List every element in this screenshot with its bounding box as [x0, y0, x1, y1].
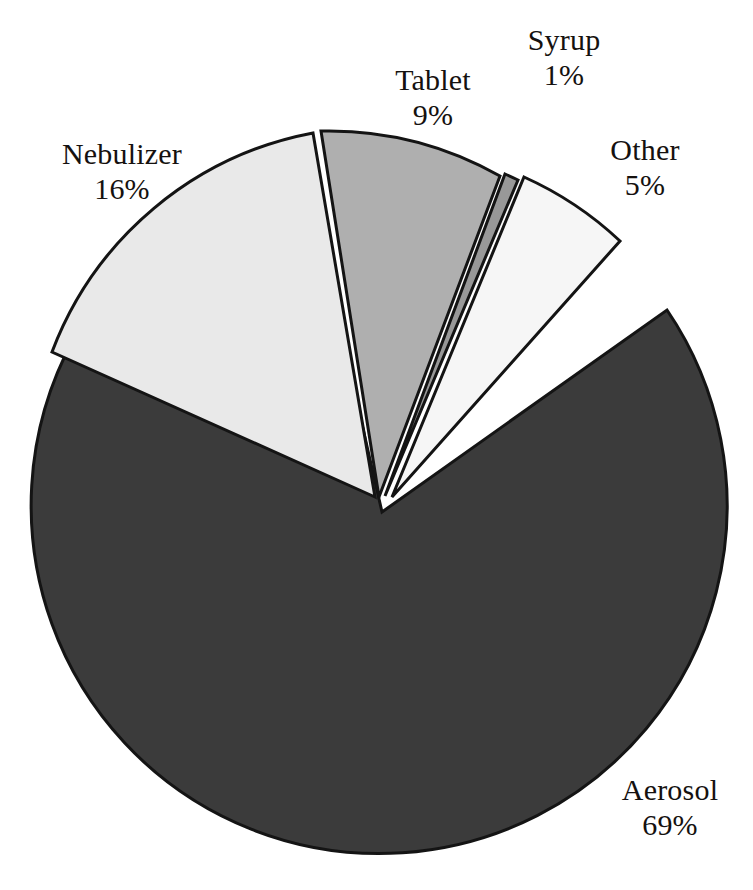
pie-label-tablet-value: 9%	[348, 97, 518, 132]
pie-label-other-name: Other	[570, 132, 720, 167]
pie-label-nebulizer: Nebulizer 16%	[22, 136, 222, 207]
pie-label-aerosol: Aerosol 69%	[585, 772, 753, 843]
pie-label-other: Other 5%	[570, 132, 720, 203]
pie-label-nebulizer-name: Nebulizer	[22, 136, 222, 171]
pie-label-syrup: Syrup 1%	[489, 22, 639, 93]
pie-label-nebulizer-value: 16%	[22, 171, 222, 206]
pie-chart: Nebulizer 16% Tablet 9% Syrup 1% Other 5…	[0, 0, 753, 890]
pie-label-aerosol-name: Aerosol	[585, 772, 753, 807]
pie-label-other-value: 5%	[570, 167, 720, 202]
pie-label-syrup-value: 1%	[489, 57, 639, 92]
pie-label-syrup-name: Syrup	[489, 22, 639, 57]
pie-label-aerosol-value: 69%	[585, 807, 753, 842]
